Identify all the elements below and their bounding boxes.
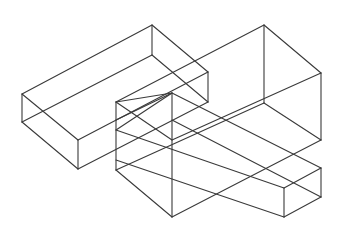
edge-line	[172, 140, 321, 217]
edge-line	[116, 160, 284, 217]
edge-line	[264, 103, 321, 140]
edge-line	[116, 25, 264, 102]
edge-line	[22, 94, 78, 140]
edge-line	[284, 197, 321, 217]
edge-line	[116, 103, 264, 170]
cross-bar	[116, 93, 321, 217]
edge-line	[22, 25, 152, 94]
edge-line	[78, 72, 208, 140]
edge-line	[264, 25, 321, 73]
edge-line	[284, 168, 321, 188]
edge-line	[22, 122, 78, 169]
edge-line	[116, 102, 172, 140]
edge-line	[152, 25, 208, 72]
edge-line	[172, 120, 321, 197]
tall-block-right	[116, 25, 321, 217]
wireframe-boxes-diagram	[0, 0, 337, 234]
edge-line	[116, 170, 172, 217]
